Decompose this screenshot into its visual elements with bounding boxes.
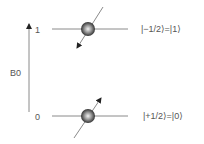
spin-particle-icon	[81, 109, 95, 123]
energy-level-diagram: B0 1 0 |−1/2⟩=|1⟩ |+1/2⟩=|0⟩	[0, 0, 204, 144]
spin-particle-icon	[81, 22, 95, 36]
lower-energy-level: |+1/2⟩=|0⟩	[52, 98, 183, 138]
upper-energy-level: |−1/2⟩=|1⟩	[52, 7, 181, 48]
lower-state-label: |+1/2⟩=|0⟩	[143, 111, 183, 121]
level-1-label: 1	[35, 25, 40, 35]
upper-state-label: |−1/2⟩=|1⟩	[141, 24, 181, 34]
b0-axis: B0 1 0	[10, 24, 40, 122]
level-0-label: 0	[35, 112, 40, 122]
b0-axis-label: B0	[10, 68, 21, 78]
